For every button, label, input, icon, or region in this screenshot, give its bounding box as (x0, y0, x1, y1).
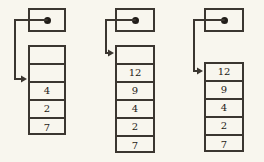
figure-canvas: 427129427129427 (0, 0, 264, 162)
arrow-head-icon (197, 67, 203, 74)
pointer-arrow (0, 0, 264, 162)
